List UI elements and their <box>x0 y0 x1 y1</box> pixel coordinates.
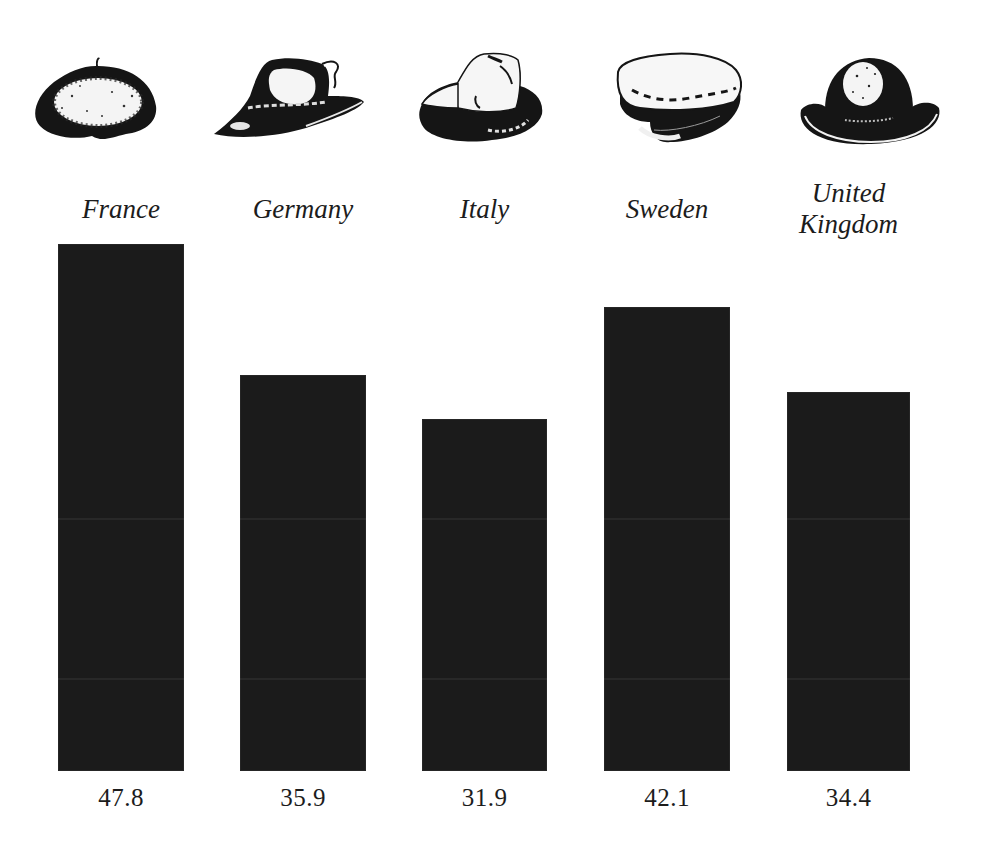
column-france: France 47.8 <box>58 0 184 861</box>
value-label: 42.1 <box>604 784 730 812</box>
country-label: Sweden <box>604 194 730 225</box>
fedora-icon <box>418 50 546 146</box>
value-label: 47.8 <box>58 784 184 812</box>
country-label: Italy <box>422 194 547 225</box>
value-label: 35.9 <box>240 784 366 812</box>
student-cap-icon <box>610 50 750 148</box>
country-label: Germany <box>240 194 366 225</box>
country-label: United Kingdom <box>787 178 910 240</box>
bar-france <box>58 244 184 771</box>
bar-italy <box>422 419 547 771</box>
value-label: 34.4 <box>787 784 910 812</box>
bar-germany <box>240 375 366 771</box>
bar-sweden <box>604 307 730 771</box>
column-germany: Germany 35.9 <box>240 0 366 861</box>
column-sweden: Sweden 42.1 <box>604 0 730 861</box>
beret-icon <box>32 56 162 146</box>
value-label: 31.9 <box>422 784 547 812</box>
bar-united-kingdom <box>787 392 910 771</box>
column-italy: Italy 31.9 <box>422 0 547 861</box>
bowler-hat-icon <box>797 56 943 148</box>
country-label: France <box>58 194 184 225</box>
tyrolean-hat-icon <box>210 56 370 140</box>
column-united-kingdom: United Kingdom 34.4 <box>787 0 910 861</box>
hat-bar-chart: France 47.8 Germany 35.9 <box>0 0 981 861</box>
